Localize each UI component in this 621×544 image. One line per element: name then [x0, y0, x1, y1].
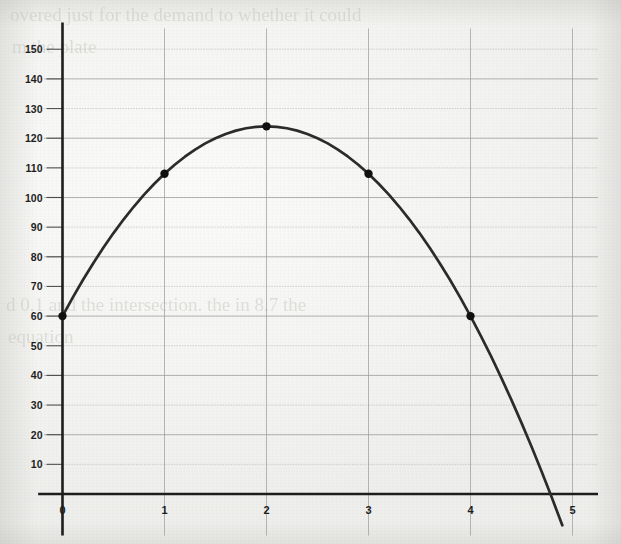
y-axis-label-120: 120 — [25, 132, 43, 144]
data-point-marker — [160, 170, 168, 178]
y-axis-label-30: 30 — [31, 399, 43, 411]
x-axis-label-1: 1 — [161, 504, 167, 516]
x-axis-label-5: 5 — [569, 504, 575, 516]
chart-canvas: 102030405060708090100110120130140150 012… — [0, 0, 621, 544]
y-axis-label-20: 20 — [31, 429, 43, 441]
y-axis-label-60: 60 — [31, 310, 43, 322]
x-axis-label-3: 3 — [365, 504, 371, 516]
x-axis-label-2: 2 — [263, 504, 269, 516]
horizontal-gridlines — [44, 49, 598, 464]
data-point-marker — [466, 312, 474, 320]
y-axis-label-40: 40 — [31, 369, 43, 381]
x-axis-label-4: 4 — [467, 504, 474, 516]
y-axis-tick-labels: 102030405060708090100110120130140150 — [25, 43, 43, 470]
axis-lines — [38, 22, 598, 535]
y-tick-marks — [47, 49, 63, 464]
parabola-chart: 102030405060708090100110120130140150 012… — [0, 0, 621, 544]
x-axis-tick-labels: 012345 — [59, 504, 575, 516]
y-axis-label-150: 150 — [25, 43, 43, 55]
parabola-curve — [63, 126, 563, 525]
y-axis-label-90: 90 — [31, 221, 43, 233]
y-axis-label-70: 70 — [31, 280, 43, 292]
y-axis-label-10: 10 — [31, 458, 43, 470]
curve-path — [63, 126, 563, 525]
y-axis-label-110: 110 — [26, 162, 43, 174]
data-point-marker — [364, 170, 372, 178]
y-axis-label-80: 80 — [31, 251, 43, 263]
vertical-gridlines — [165, 28, 573, 535]
y-axis-label-100: 100 — [25, 192, 43, 204]
data-point-marker — [262, 122, 270, 130]
data-point-marker — [58, 312, 66, 320]
x-axis-label-0: 0 — [59, 504, 65, 516]
y-axis-label-130: 130 — [25, 103, 43, 115]
y-axis-label-50: 50 — [31, 340, 43, 352]
y-axis-label-140: 140 — [25, 73, 43, 85]
